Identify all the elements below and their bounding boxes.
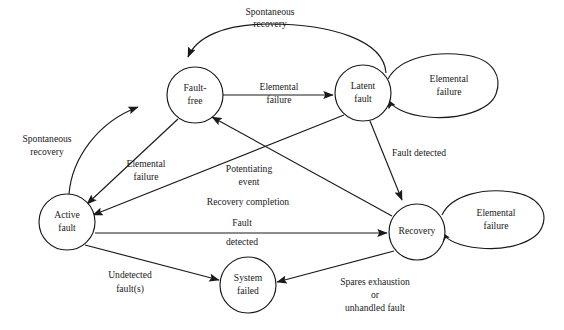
edge-label-potentiating-event-line2: event: [239, 176, 260, 187]
state-diagram-canvas: Spontaneous recovery Elemental failure S…: [0, 0, 564, 330]
edge-path-fault-detected-latent: [370, 121, 402, 200]
edge-label-potentiating-event-line1: Potentiating: [226, 163, 273, 174]
edge-label-undetected-faults-line2: fault(s): [116, 283, 144, 295]
self-loop-label-recovery-line2: failure: [483, 220, 508, 231]
self-loop-label-latent-fault-line2: failure: [436, 86, 461, 97]
node-label-system-failed-line1: System: [234, 272, 263, 283]
edge-label-elemental-failure-left-line1: Elemental: [127, 158, 166, 169]
node-label-system-failed-line2: failed: [237, 285, 259, 296]
node-fault-free[interactable]: Fault- free: [167, 67, 223, 123]
edge-label-fault-detected-active-line2: detected: [226, 236, 258, 247]
node-label-active-fault-line1: Active: [54, 209, 80, 220]
node-label-fault-free-line2: free: [188, 95, 203, 106]
edge-active-to-systemfailed-undetected: Undetected fault(s): [85, 245, 219, 295]
edge-label-elemental-failure-top-line2: failure: [266, 94, 291, 105]
state-diagram-svg: Spontaneous recovery Elemental failure S…: [0, 0, 564, 330]
edge-latent-to-recovery-detected: Fault detected: [370, 121, 446, 200]
edge-label-recovery-completion: Recovery completion: [207, 196, 290, 207]
edge-label-spares-exhaustion-line1: Spares exhaustion: [340, 276, 410, 287]
self-loop-latent-fault: Elemental failure: [387, 54, 498, 118]
edge-label-elemental-failure-left-line2: failure: [133, 171, 158, 182]
edge-path-undetected-faults: [85, 245, 219, 280]
edge-label-fault-detected-active-line1: Fault: [232, 217, 252, 228]
edge-label-undetected-faults-line1: Undetected: [108, 269, 152, 280]
node-latent-fault[interactable]: Latent fault: [335, 65, 391, 121]
edge-active-to-recovery-detected: Fault detected: [95, 217, 387, 247]
edge-label-fault-detected-latent: Fault detected: [392, 147, 446, 158]
edge-active-to-faultfree-spontaneous: Spontaneous recovery: [22, 107, 138, 194]
node-label-latent-fault-line2: fault: [354, 93, 372, 104]
edge-label-spares-exhaustion-line2: or: [371, 289, 380, 300]
edge-label-spontaneous-recovery-latent-line2: recovery: [253, 18, 287, 29]
self-loop-label-recovery-line1: Elemental: [477, 207, 516, 218]
node-label-active-fault-line2: fault: [58, 222, 76, 233]
node-system-failed[interactable]: System failed: [220, 257, 276, 313]
self-loop-recovery: Elemental failure: [441, 191, 544, 249]
edge-recovery-to-systemfailed-spares: Spares exhaustion or unhandled fault: [277, 251, 410, 313]
node-recovery[interactable]: Recovery: [389, 204, 445, 260]
edge-faultfree-to-active-elemental: Elemental failure: [87, 119, 178, 204]
edge-latent-to-faultfree-spontaneous: Spontaneous recovery: [188, 6, 386, 73]
edge-label-spontaneous-recovery-latent-line1: Spontaneous: [245, 6, 294, 17]
node-active-fault[interactable]: Active fault: [39, 194, 95, 250]
node-label-recovery-line1: Recovery: [399, 225, 436, 236]
node-label-fault-free-line1: Fault-: [184, 82, 207, 93]
edge-faultfree-to-latent-elemental: Elemental failure: [223, 81, 333, 105]
edge-label-elemental-failure-top-line1: Elemental: [260, 81, 299, 92]
edge-path-spontaneous-recovery-active: [69, 107, 138, 194]
edge-label-spares-exhaustion-line3: unhandled fault: [345, 302, 405, 313]
self-loop-label-latent-fault-line1: Elemental: [430, 73, 469, 84]
edge-label-spontaneous-recovery-active-line1: Spontaneous: [22, 133, 71, 144]
edge-label-spontaneous-recovery-active-line2: recovery: [30, 146, 64, 157]
node-label-latent-fault-line1: Latent: [351, 80, 376, 91]
